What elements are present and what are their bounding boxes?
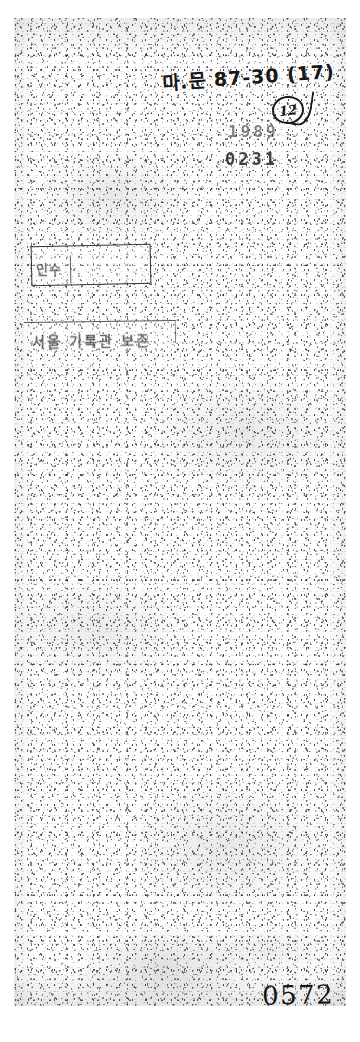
- stamp-box-lower-text: 서울 기록관 보존: [32, 329, 151, 351]
- stamp-box-lower: 서울 기록관 보존: [24, 320, 176, 353]
- stamp-box-divider: [70, 255, 72, 283]
- circled-number-stroke-tail: [290, 89, 315, 127]
- scan-smudge: [194, 923, 344, 978]
- scan-noise-layer-light: [14, 18, 346, 1006]
- scan-noise-layer-coarse: [14, 18, 346, 1006]
- stamp-number-row-upper: 1989: [228, 122, 279, 141]
- scanned-document-page: 마.문 87-30 (17) 12 1989 0231 인수 서울 기록관 보존…: [0, 0, 360, 1042]
- page-number: 0572: [262, 979, 335, 1006]
- scan-noise-layer-fine: [14, 18, 346, 1006]
- stamp-box-upper: 인수: [31, 244, 152, 287]
- handwritten-reference-annotation: 마.문 87-30 (17): [161, 56, 335, 95]
- stamp-box-upper-text: 인수: [36, 259, 62, 279]
- scan-area: 마.문 87-30 (17) 12 1989 0231 인수 서울 기록관 보존…: [14, 18, 346, 1006]
- scan-mottling: [14, 18, 346, 1006]
- scan-edge-shading: [14, 18, 346, 1006]
- stamp-box-lower-edge: [175, 321, 176, 343]
- scan-noise-layer-medium: [14, 18, 346, 1006]
- stamp-number-row-lower: 0231: [225, 149, 278, 169]
